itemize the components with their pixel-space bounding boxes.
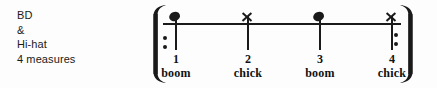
- notation-staff: 1 boom 2 chick 3 boom: [0, 0, 437, 88]
- beat-number: 4: [360, 53, 424, 66]
- beat-label-3: 3 boom: [288, 53, 352, 81]
- note-stem: [175, 16, 177, 50]
- staff-line: [163, 23, 401, 25]
- beat-number: 2: [216, 53, 280, 66]
- beat-label-2: 2 chick: [216, 53, 280, 81]
- beat-label-4: 4 chick: [360, 53, 424, 81]
- note-beat-2: [236, 8, 260, 58]
- filled-notehead: [312, 10, 325, 22]
- filled-notehead: [168, 10, 181, 22]
- beat-word: chick: [216, 66, 280, 81]
- x-notehead: [241, 11, 253, 23]
- note-beat-1: [164, 8, 188, 58]
- note-beat-4: [380, 8, 404, 58]
- beat-label-1: 1 boom: [144, 53, 208, 81]
- beat-number: 1: [144, 53, 208, 66]
- beat-word: boom: [144, 66, 208, 81]
- drum-notation-figure: BD & Hi-hat 4 measures: [0, 0, 437, 88]
- note-beat-3: [308, 8, 332, 58]
- beat-word: boom: [288, 66, 352, 81]
- beat-word: chick: [360, 66, 424, 81]
- note-stem: [319, 16, 321, 50]
- beat-number: 3: [288, 53, 352, 66]
- x-notehead: [385, 11, 397, 23]
